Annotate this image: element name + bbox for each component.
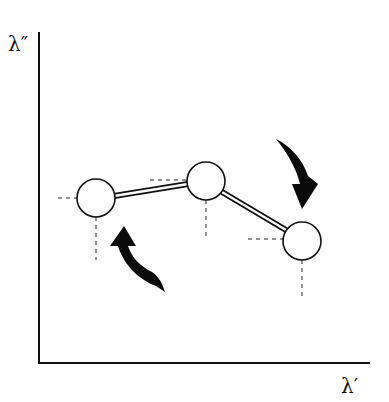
rotation-arrow-left-icon [110,226,165,292]
node-2 [187,162,225,200]
bond-1-2 [114,184,188,196]
x-axis-label: λ′ [341,376,358,396]
rotation-arrow-right-icon [276,139,318,209]
y-axis-label: λ″ [8,34,28,54]
node-1 [77,179,115,217]
bond-2-3 [222,192,286,230]
node-3 [283,222,321,260]
diagram-canvas [0,0,389,402]
